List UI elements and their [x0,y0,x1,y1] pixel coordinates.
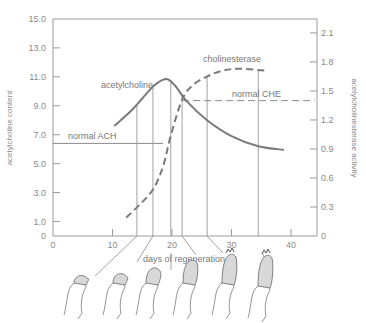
y-tick-label: 15.0 [28,14,46,24]
y-axis-right-ticks: 2.11.81.51.20.90.60.30 [310,28,334,241]
plot-frame [53,19,317,236]
regeneration-chart: 15.013.011.09.07.05.03.01.00 2.11.81.51.… [0,0,366,323]
x-tick-label: 20 [167,240,177,250]
y2-tick-label: 1.5 [321,86,334,96]
normal-che-label: normal CHE [232,89,281,99]
y2-tick-label: 1.2 [321,115,334,125]
y-axis-title: acetylcholine content [5,90,14,165]
y2-tick-label: 1.8 [321,57,334,67]
limb-stage-3 [136,268,161,319]
acetylcholine-label: acetylcholine [101,80,153,90]
cholinesterase-label: cholinesterase [203,54,261,64]
limb-stage-4 [173,260,198,319]
y-tick-label: 13.0 [28,43,46,53]
limb-stage-6 [248,249,273,322]
x-tick-label: 40 [286,240,296,250]
y-tick-label: 3.0 [33,188,46,198]
y-tick-label: 5.0 [33,159,46,169]
y-tick-label: 11.0 [29,72,46,82]
normal-ach-label: normal ACH [68,131,117,141]
x-axis-title: days of regeneration [143,254,225,264]
y2-tick-label: 0.6 [321,173,334,183]
y-tick-label: 7.0 [33,130,46,140]
x-origin-label: 0 [50,240,55,250]
y2-tick-label: 2.1 [321,28,334,38]
y2-tick-label: 0.9 [321,144,334,154]
y2-origin-label: 0 [321,231,326,241]
y2-tick-label: 0.3 [321,202,334,212]
limb-stage-1 [64,276,89,319]
y-axis-left-ticks: 15.013.011.09.07.05.03.01.00 [28,14,60,241]
x-axis-ticks: 102030400 [50,229,296,250]
y-tick-label: 1.0 [33,217,46,227]
x-tick-label: 10 [107,240,117,250]
limb-stage-2 [103,274,128,319]
y2-axis-title: acetylcholinesterase activity [350,78,359,177]
y-origin-label: 0 [41,231,46,241]
y-tick-label: 9.0 [33,101,46,111]
